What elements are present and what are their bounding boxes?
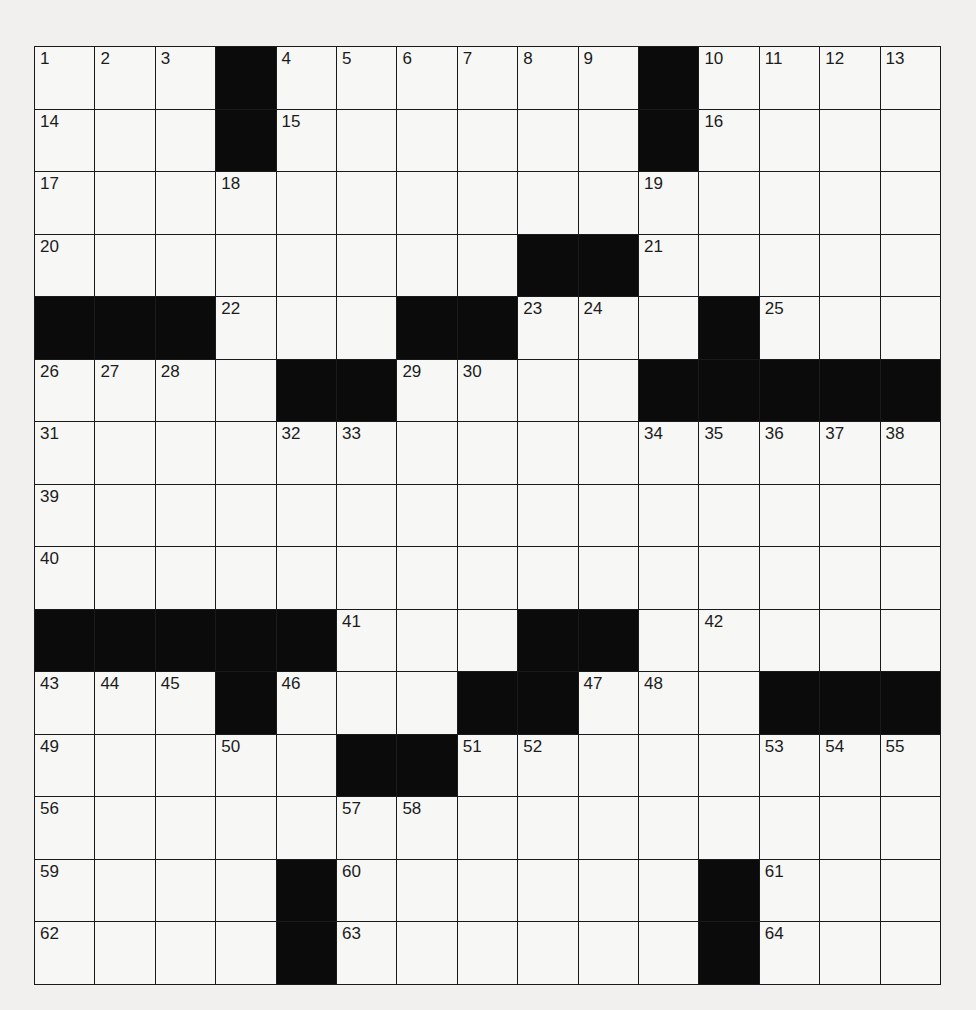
grid-cell[interactable] (397, 235, 456, 297)
grid-cell[interactable] (95, 860, 154, 922)
grid-cell[interactable] (699, 485, 758, 547)
grid-cell[interactable] (458, 610, 517, 672)
grid-cell[interactable] (699, 735, 758, 797)
grid-cell[interactable] (277, 235, 336, 297)
grid-cell[interactable] (881, 860, 940, 922)
grid-cell[interactable] (579, 360, 638, 422)
grid-cell[interactable] (95, 735, 154, 797)
grid-cell[interactable] (579, 797, 638, 859)
grid-cell[interactable]: 28 (156, 360, 215, 422)
grid-cell[interactable] (337, 297, 396, 359)
grid-cell[interactable] (95, 235, 154, 297)
grid-cell[interactable] (216, 922, 275, 984)
grid-cell[interactable]: 45 (156, 672, 215, 734)
grid-cell[interactable] (639, 735, 698, 797)
grid-cell[interactable] (277, 547, 336, 609)
grid-cell[interactable] (337, 235, 396, 297)
grid-cell[interactable] (277, 797, 336, 859)
grid-cell[interactable]: 37 (820, 422, 879, 484)
grid-cell[interactable] (458, 110, 517, 172)
grid-cell[interactable] (579, 735, 638, 797)
grid-cell[interactable] (156, 547, 215, 609)
grid-cell[interactable]: 6 (397, 47, 456, 109)
grid-cell[interactable] (820, 485, 879, 547)
grid-cell[interactable]: 3 (156, 47, 215, 109)
grid-cell[interactable] (277, 735, 336, 797)
grid-cell[interactable]: 46 (277, 672, 336, 734)
grid-cell[interactable] (95, 797, 154, 859)
grid-cell[interactable]: 33 (337, 422, 396, 484)
grid-cell[interactable] (760, 110, 819, 172)
grid-cell[interactable] (216, 797, 275, 859)
grid-cell[interactable]: 14 (35, 110, 94, 172)
grid-cell[interactable] (458, 422, 517, 484)
grid-cell[interactable]: 2 (95, 47, 154, 109)
grid-cell[interactable]: 8 (518, 47, 577, 109)
grid-cell[interactable] (518, 485, 577, 547)
grid-cell[interactable]: 24 (579, 297, 638, 359)
grid-cell[interactable] (639, 485, 698, 547)
grid-cell[interactable]: 44 (95, 672, 154, 734)
grid-cell[interactable]: 19 (639, 172, 698, 234)
grid-cell[interactable] (820, 860, 879, 922)
grid-cell[interactable]: 26 (35, 360, 94, 422)
grid-cell[interactable] (699, 547, 758, 609)
grid-cell[interactable] (639, 297, 698, 359)
grid-cell[interactable] (760, 797, 819, 859)
grid-cell[interactable] (95, 172, 154, 234)
grid-cell[interactable] (760, 547, 819, 609)
grid-cell[interactable] (458, 797, 517, 859)
grid-cell[interactable]: 43 (35, 672, 94, 734)
grid-cell[interactable] (639, 860, 698, 922)
grid-cell[interactable] (820, 110, 879, 172)
grid-cell[interactable]: 16 (699, 110, 758, 172)
grid-cell[interactable] (518, 922, 577, 984)
grid-cell[interactable]: 49 (35, 735, 94, 797)
grid-cell[interactable] (156, 172, 215, 234)
grid-cell[interactable]: 34 (639, 422, 698, 484)
grid-cell[interactable]: 18 (216, 172, 275, 234)
grid-cell[interactable] (639, 547, 698, 609)
grid-cell[interactable]: 40 (35, 547, 94, 609)
grid-cell[interactable] (820, 797, 879, 859)
grid-cell[interactable] (579, 110, 638, 172)
grid-cell[interactable] (95, 547, 154, 609)
grid-cell[interactable] (579, 485, 638, 547)
grid-cell[interactable] (397, 860, 456, 922)
grid-cell[interactable]: 9 (579, 47, 638, 109)
grid-cell[interactable]: 56 (35, 797, 94, 859)
grid-cell[interactable]: 50 (216, 735, 275, 797)
grid-cell[interactable] (397, 610, 456, 672)
grid-cell[interactable] (397, 110, 456, 172)
grid-cell[interactable] (216, 360, 275, 422)
grid-cell[interactable] (579, 547, 638, 609)
grid-cell[interactable]: 27 (95, 360, 154, 422)
grid-cell[interactable]: 23 (518, 297, 577, 359)
grid-cell[interactable]: 41 (337, 610, 396, 672)
grid-cell[interactable] (156, 235, 215, 297)
grid-cell[interactable] (518, 547, 577, 609)
grid-cell[interactable] (760, 485, 819, 547)
grid-cell[interactable] (458, 547, 517, 609)
grid-cell[interactable] (881, 610, 940, 672)
grid-cell[interactable] (820, 547, 879, 609)
grid-cell[interactable] (881, 297, 940, 359)
grid-cell[interactable] (518, 797, 577, 859)
grid-cell[interactable] (95, 110, 154, 172)
grid-cell[interactable] (579, 172, 638, 234)
grid-cell[interactable]: 47 (579, 672, 638, 734)
grid-cell[interactable] (337, 172, 396, 234)
grid-cell[interactable] (156, 797, 215, 859)
grid-cell[interactable] (820, 610, 879, 672)
grid-cell[interactable] (397, 422, 456, 484)
grid-cell[interactable] (277, 485, 336, 547)
grid-cell[interactable]: 42 (699, 610, 758, 672)
grid-cell[interactable] (579, 860, 638, 922)
grid-cell[interactable] (156, 860, 215, 922)
grid-cell[interactable]: 31 (35, 422, 94, 484)
grid-cell[interactable]: 7 (458, 47, 517, 109)
grid-cell[interactable] (760, 235, 819, 297)
grid-cell[interactable] (397, 485, 456, 547)
grid-cell[interactable] (277, 297, 336, 359)
grid-cell[interactable]: 30 (458, 360, 517, 422)
